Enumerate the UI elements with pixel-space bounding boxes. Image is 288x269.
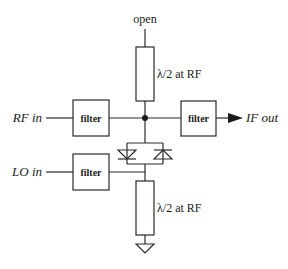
arrow-right-icon: [228, 113, 243, 123]
mixer-schematic: open λ/2 at RF λ/2 at RF RF in LO in IF …: [0, 0, 288, 269]
if-filter-label: filter: [188, 113, 210, 124]
if-out-label: IF out: [245, 110, 279, 125]
lo-filter-label: filter: [80, 167, 102, 178]
open-label: open: [133, 12, 156, 26]
rf-in-label: RF in: [12, 110, 42, 125]
junction-dot-icon: [142, 115, 148, 121]
lo-in-label: LO in: [11, 164, 42, 179]
ground-icon: [136, 244, 154, 253]
top-stub-label: λ/2 at RF: [157, 67, 202, 81]
top-half-wave-stub: [136, 47, 154, 101]
bottom-stub-label: λ/2 at RF: [157, 201, 202, 215]
rf-filter-label: filter: [80, 113, 102, 124]
bottom-half-wave-stub: [136, 181, 154, 235]
